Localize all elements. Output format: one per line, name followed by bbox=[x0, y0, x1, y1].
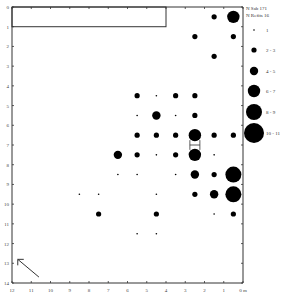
data-point bbox=[156, 95, 158, 97]
data-point bbox=[227, 11, 239, 23]
data-point bbox=[192, 113, 197, 118]
data-point bbox=[173, 93, 178, 98]
data-point bbox=[152, 111, 160, 119]
data-point bbox=[136, 174, 138, 176]
data-point bbox=[212, 133, 217, 138]
x-tick-label: 4 bbox=[165, 288, 168, 293]
data-point bbox=[212, 54, 217, 59]
y-tick-label: 7 bbox=[7, 143, 10, 148]
data-point bbox=[136, 115, 138, 117]
data-point bbox=[231, 133, 236, 138]
data-point bbox=[156, 154, 158, 156]
y-tick-label: 12 bbox=[4, 242, 10, 247]
axes: 1211109876543210 m01234567891011121314 bbox=[4, 5, 247, 293]
legend-label: 1 bbox=[266, 28, 269, 33]
x-tick-label: 3 bbox=[184, 288, 187, 293]
data-point bbox=[114, 151, 122, 159]
legend: N Sab 171N Refits 1612 - 34 - 56 - 78 - … bbox=[244, 6, 280, 143]
legend-header: N Refits 16 bbox=[246, 13, 270, 18]
x-tick-label: 12 bbox=[10, 288, 16, 293]
refit-link bbox=[190, 140, 200, 150]
y-tick-label: 9 bbox=[7, 182, 10, 187]
data-point bbox=[231, 34, 236, 39]
legend-header: N Sab 171 bbox=[246, 6, 268, 11]
data-point bbox=[173, 133, 178, 138]
data-point bbox=[210, 190, 218, 198]
y-tick-label: 10 bbox=[4, 202, 10, 207]
legend-symbol bbox=[250, 67, 258, 75]
x-tick-label: 10 bbox=[48, 288, 54, 293]
legend-symbol bbox=[251, 47, 256, 52]
legend-symbol bbox=[248, 85, 260, 97]
legend-symbol bbox=[244, 123, 264, 143]
data-point bbox=[212, 172, 217, 177]
y-tick-label: 13 bbox=[4, 261, 10, 266]
x-tick-label: 8 bbox=[88, 288, 91, 293]
y-tick-label: 4 bbox=[7, 84, 10, 89]
distribution-chart: 1211109876543210 m01234567891011121314 N… bbox=[0, 0, 285, 298]
data-point bbox=[154, 211, 159, 216]
y-tick-label: 1 bbox=[7, 25, 10, 30]
legend-label: 8 - 9 bbox=[266, 110, 276, 115]
data-point bbox=[189, 129, 201, 141]
data-point bbox=[96, 211, 101, 216]
data-point bbox=[156, 193, 158, 195]
legend-label: 6 - 7 bbox=[266, 89, 276, 94]
legend-symbol bbox=[246, 104, 262, 120]
data-point bbox=[98, 193, 100, 195]
legend-label: 2 - 3 bbox=[266, 48, 276, 53]
data-point bbox=[79, 193, 81, 195]
data-point bbox=[192, 192, 197, 197]
data-point bbox=[212, 14, 217, 19]
excavation-rectangle bbox=[12, 7, 166, 27]
y-tick-label: 11 bbox=[4, 222, 9, 227]
x-tick-label: 7 bbox=[107, 288, 110, 293]
x-tick-label: 9 bbox=[69, 288, 72, 293]
data-point bbox=[192, 34, 197, 39]
legend-label: 10 - 11 bbox=[266, 131, 280, 136]
legend-label: 4 - 5 bbox=[266, 69, 276, 74]
data-point bbox=[135, 93, 140, 98]
y-tick-label: 3 bbox=[7, 64, 10, 69]
data-point bbox=[213, 154, 215, 156]
data-point bbox=[156, 233, 158, 235]
x-tick-label: 2 bbox=[203, 288, 206, 293]
y-tick-label: 8 bbox=[7, 163, 10, 168]
y-tick-label: 5 bbox=[7, 104, 10, 109]
data-point bbox=[191, 170, 199, 178]
y-tick-label: 2 bbox=[7, 44, 10, 49]
x-tick-label: 0 m bbox=[239, 288, 247, 293]
x-tick-label: 1 bbox=[223, 288, 226, 293]
data-point bbox=[225, 186, 241, 202]
data-point bbox=[136, 233, 138, 235]
data-point bbox=[175, 115, 177, 117]
data-point bbox=[225, 167, 241, 183]
annotations bbox=[12, 7, 200, 277]
north-arrow-icon bbox=[18, 259, 39, 277]
data-point bbox=[117, 174, 119, 176]
data-point bbox=[173, 152, 178, 157]
data-point bbox=[189, 149, 201, 161]
x-tick-label: 11 bbox=[29, 288, 34, 293]
legend-symbol bbox=[253, 29, 255, 31]
data-point bbox=[135, 152, 140, 157]
data-point bbox=[231, 211, 236, 216]
data-point bbox=[192, 93, 197, 98]
data-point bbox=[213, 213, 215, 215]
x-tick-label: 6 bbox=[126, 288, 129, 293]
data-point bbox=[175, 174, 177, 176]
y-tick-label: 6 bbox=[7, 123, 10, 128]
data-point bbox=[135, 133, 140, 138]
x-tick-label: 5 bbox=[146, 288, 149, 293]
y-tick-label: 14 bbox=[4, 281, 10, 286]
y-tick-label: 0 bbox=[7, 5, 10, 10]
data-point bbox=[154, 133, 159, 138]
data-points bbox=[79, 11, 242, 235]
